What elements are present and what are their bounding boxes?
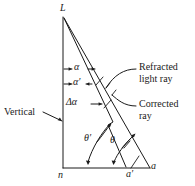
diagram-canvas <box>0 0 195 186</box>
vertical-leader <box>43 112 62 121</box>
delta-alpha-arrow <box>91 102 102 105</box>
annotation-corrected-line2: ray <box>139 111 152 122</box>
refracted-leader-tip <box>106 83 110 88</box>
a-prime-tick <box>131 156 139 168</box>
point-label-n: n <box>58 170 63 181</box>
corrected-leader-tip <box>112 90 116 95</box>
corrected-leader <box>112 95 136 106</box>
angle-label-alpha: α <box>74 62 79 73</box>
refracted-ray-line <box>64 18 150 168</box>
angle-label-theta: θ <box>110 135 115 146</box>
angle-label-delta-alpha: Δα <box>66 97 77 108</box>
annotation-refracted-line1: Refracted <box>139 62 178 73</box>
annotation-vertical: Vertical <box>4 107 35 118</box>
annotation-corrected-line1: Corrected <box>139 99 178 110</box>
annotation-refracted-line2: light ray <box>139 74 173 85</box>
point-label-a-prime: a′ <box>126 169 133 180</box>
angle-label-alpha-prime: α′ <box>73 77 80 88</box>
angle-label-theta-prime: θ′ <box>84 133 91 144</box>
refraction-diagram-figure: L n a′ a α α′ Δα θ′ θ Vertical Refracted… <box>0 0 195 186</box>
point-label-L: L <box>60 3 66 14</box>
theta-upper-arrow <box>122 134 136 149</box>
refracted-leader <box>106 69 136 88</box>
point-label-a: a <box>151 161 156 172</box>
alpha-arrow <box>64 67 95 70</box>
